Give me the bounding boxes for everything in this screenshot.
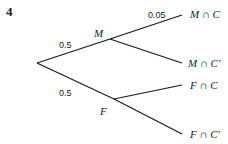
- branch-F-FC: [114, 85, 182, 99]
- branch-F-FCprime: [114, 99, 182, 134]
- prob-label-MC: 0.05: [148, 11, 166, 20]
- outcome-M-and-C: M ∩ C: [190, 9, 220, 20]
- question-number: 4: [6, 5, 13, 18]
- tree-diagram: [0, 0, 228, 144]
- node-label-M: M: [94, 28, 103, 39]
- prob-label-F: 0.5: [59, 89, 72, 98]
- branch-root-M: [37, 39, 110, 63]
- outcome-F-and-Cprime: F ∩ C′: [190, 129, 220, 140]
- branch-root-F: [37, 63, 114, 99]
- prob-label-M: 0.5: [59, 41, 72, 50]
- outcome-M-and-Cprime: M ∩ C′: [188, 58, 220, 69]
- node-label-F: F: [100, 106, 107, 117]
- branch-M-MCprime: [110, 39, 182, 63]
- branch-M-MC: [110, 15, 182, 39]
- outcome-F-and-C: F ∩ C: [190, 80, 218, 91]
